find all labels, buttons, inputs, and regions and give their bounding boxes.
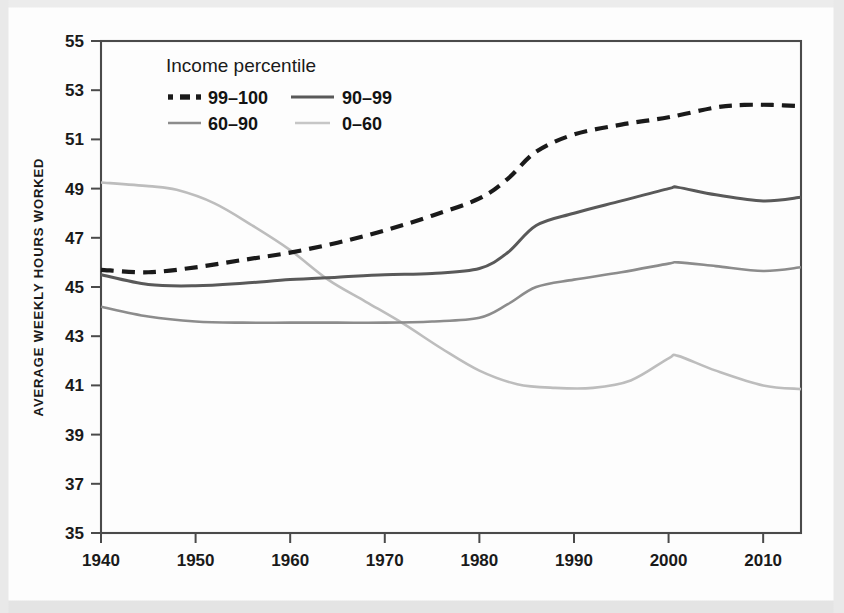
x-tick-label: 2000 bbox=[650, 551, 688, 570]
x-axis-ticks: 19401950196019701980199020002010 bbox=[82, 533, 782, 570]
x-tick-label: 1970 bbox=[366, 551, 404, 570]
y-axis-ticks: 3537394143454749515355 bbox=[65, 32, 101, 543]
series-line-90-99 bbox=[101, 187, 801, 286]
legend-entry-0-60: 0–60 bbox=[295, 114, 382, 134]
x-tick-label: 1950 bbox=[177, 551, 215, 570]
legend-label-99-100: 99–100 bbox=[208, 88, 268, 108]
x-tick-label: 1960 bbox=[271, 551, 309, 570]
y-tick-label: 43 bbox=[65, 327, 84, 346]
y-tick-label: 55 bbox=[65, 32, 84, 51]
y-tick-label: 51 bbox=[65, 130, 84, 149]
y-tick-label: 37 bbox=[65, 475, 84, 494]
legend-entry-99-100: 99–100 bbox=[168, 88, 268, 108]
x-tick-label: 2010 bbox=[744, 551, 782, 570]
y-axis-title: AVERAGE WEEKLY HOURS WORKED bbox=[31, 158, 46, 417]
y-tick-label: 53 bbox=[65, 81, 84, 100]
legend-label-0-60: 0–60 bbox=[342, 114, 382, 134]
chart-page: 3537394143454749515355 19401950196019701… bbox=[0, 0, 844, 613]
x-tick-label: 1940 bbox=[82, 551, 120, 570]
y-tick-label: 35 bbox=[65, 524, 84, 543]
legend-entry-60-90: 60–90 bbox=[168, 114, 258, 134]
chart-legend: Income percentile 99–100 90–99 60–90 bbox=[166, 55, 392, 134]
line-chart-figure: 3537394143454749515355 19401950196019701… bbox=[0, 0, 844, 613]
y-tick-label: 39 bbox=[65, 426, 84, 445]
y-tick-label: 41 bbox=[65, 376, 84, 395]
data-series-layer bbox=[101, 105, 801, 389]
x-tick-label: 1980 bbox=[460, 551, 498, 570]
plot-area-border bbox=[101, 41, 801, 533]
y-tick-label: 45 bbox=[65, 278, 84, 297]
plot-frame bbox=[101, 41, 801, 533]
chart-canvas: 3537394143454749515355 19401950196019701… bbox=[0, 0, 844, 613]
y-tick-label: 47 bbox=[65, 229, 84, 248]
series-line-99-100 bbox=[101, 105, 801, 273]
x-tick-label: 1990 bbox=[555, 551, 593, 570]
legend-label-60-90: 60–90 bbox=[208, 114, 258, 134]
legend-label-90-99: 90–99 bbox=[342, 88, 392, 108]
y-tick-label: 49 bbox=[65, 180, 84, 199]
legend-title: Income percentile bbox=[166, 55, 316, 76]
legend-entry-90-99: 90–99 bbox=[291, 88, 392, 108]
